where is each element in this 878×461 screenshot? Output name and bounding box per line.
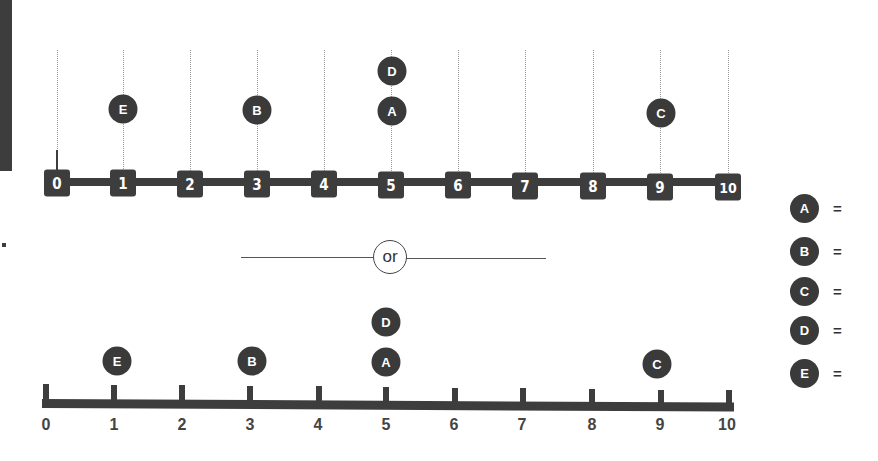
marker-b: B <box>243 96 272 125</box>
gridline-6 <box>458 50 459 175</box>
legend-row-e: E = <box>790 359 842 388</box>
ruler-label-5: 5 <box>382 416 391 434</box>
ruler-label-3: 3 <box>246 416 255 434</box>
ruler-tick-0 <box>43 384 49 404</box>
ruler-tick-2 <box>179 385 185 405</box>
ruler-label-4: 4 <box>314 416 323 434</box>
ruler-label-10: 10 <box>718 416 736 434</box>
ruler-tick-3 <box>247 386 253 406</box>
tick-6: 6 <box>445 172 471 199</box>
legend-marker-d: D <box>790 316 819 345</box>
ruler-tick-7 <box>520 388 526 408</box>
legend-equals-b: = <box>833 243 842 260</box>
marker-e: E <box>109 95 138 124</box>
ruler-label-7: 7 <box>518 416 527 434</box>
legend-equals-e: = <box>833 365 842 382</box>
tick-3: 3 <box>244 171 270 198</box>
gridline-10 <box>728 50 729 175</box>
legend-equals-a: = <box>833 200 842 217</box>
legend-equals-c: = <box>833 283 842 300</box>
ruler-tick-1 <box>111 385 117 405</box>
ruler-label-6: 6 <box>450 416 459 434</box>
ruler-label-2: 2 <box>178 416 187 434</box>
marker-d: D <box>378 57 407 86</box>
tick-7: 7 <box>512 173 538 200</box>
legend-row-a: A = <box>790 194 842 223</box>
separator-line-left <box>241 257 374 258</box>
tick-10: 10 <box>715 174 741 201</box>
tick-4: 4 <box>311 171 337 198</box>
tick-0: 0 <box>44 170 70 197</box>
ruler-tick-9 <box>658 390 664 410</box>
ruler-label-9: 9 <box>656 416 665 434</box>
tick-8: 8 <box>580 173 606 200</box>
gridline-8 <box>593 50 594 175</box>
legend-equals-d: = <box>833 322 842 339</box>
gridline-7 <box>525 50 526 175</box>
legend-marker-c: C <box>790 277 819 306</box>
gridline-2 <box>190 50 191 175</box>
legend-row-c: C = <box>790 277 842 306</box>
ruler-tick-8 <box>589 389 595 409</box>
gridline-4 <box>324 50 325 175</box>
tick-9: 9 <box>647 174 673 201</box>
marker-c: C <box>647 99 676 128</box>
zero-stub <box>56 150 58 170</box>
ruler-tick-4 <box>316 386 322 406</box>
legend-marker-b: B <box>790 237 819 266</box>
tick-2: 2 <box>177 171 203 198</box>
ruler-tick-6 <box>452 388 458 408</box>
marker-d: D <box>372 308 401 337</box>
ruler-label-1: 1 <box>110 416 119 434</box>
marker-a: A <box>378 97 407 126</box>
marker-a: A <box>372 348 401 377</box>
marker-e: E <box>103 347 132 376</box>
legend-marker-e: E <box>790 359 819 388</box>
separator-line-right <box>406 258 546 259</box>
ruler-tick-5 <box>383 387 389 407</box>
left-edge-bar <box>0 0 12 171</box>
legend-row-d: D = <box>790 316 842 345</box>
marker-b: B <box>238 347 267 376</box>
marker-c: C <box>643 350 672 379</box>
side-bullet <box>2 243 6 247</box>
ruler-tick-10 <box>726 390 732 410</box>
ruler-label-0: 0 <box>42 416 51 434</box>
tick-5: 5 <box>378 172 404 199</box>
ruler-label-8: 8 <box>588 416 597 434</box>
legend-row-b: B = <box>790 237 842 266</box>
legend-marker-a: A <box>790 194 819 223</box>
or-separator: or <box>373 240 407 274</box>
tick-1: 1 <box>110 170 136 197</box>
